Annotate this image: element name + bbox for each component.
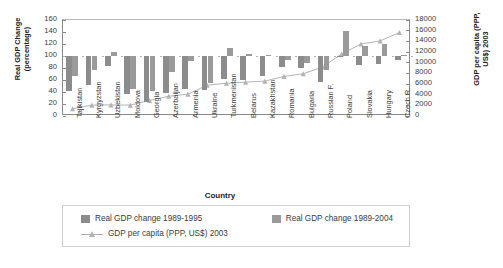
tick-mark [63, 20, 66, 21]
legend-swatch-line-marker [81, 230, 103, 238]
baseline-tick [372, 56, 374, 57]
gdp-chart: Real GDP Change (percentage) GDP per cap… [0, 0, 503, 268]
baseline-tick [218, 56, 220, 57]
y-axis-right-label: 12000 [415, 47, 449, 55]
bar [246, 54, 252, 56]
baseline-tick [392, 56, 394, 57]
x-axis-label: Bulgaria [307, 91, 316, 118]
x-axis-label: Hungary [384, 90, 393, 118]
x-axis-label: Romania [287, 88, 296, 118]
bar [285, 56, 291, 60]
baseline-tick [295, 56, 297, 57]
y-axis-right-label: 10000 [415, 58, 449, 66]
bar [356, 56, 362, 65]
legend-label-0: Real GDP change 1989-1995 [95, 214, 202, 223]
x-axis-label: Kazakhstan [268, 79, 277, 118]
baseline-tick [276, 56, 278, 57]
x-axis-label: Moldova [133, 90, 142, 118]
legend-label-2: GDP per capita (PPP, US$) 2003 [108, 229, 228, 238]
y-axis-right-label: 2000 [415, 100, 449, 108]
legend-label-1: Real GDP change 1989-2004 [286, 214, 393, 223]
y-axis-left-label: 0 [27, 111, 57, 119]
x-axis-label: Armenia [191, 90, 200, 118]
y-axis-right-label: 8000 [415, 68, 449, 76]
bar [169, 56, 175, 72]
baseline-tick [160, 56, 162, 57]
x-axis-title: Country [0, 191, 440, 200]
baseline-tick [140, 56, 142, 57]
x-axis-label: Turkmenistan [229, 74, 238, 119]
line-marker-triangle-icon [397, 30, 402, 35]
bar [337, 56, 343, 57]
tick-mark [406, 20, 409, 21]
y-axis-right-label: 16000 [415, 26, 449, 34]
y-axis-right-label: 6000 [415, 79, 449, 87]
y-axis-left-label: 160 [27, 15, 57, 23]
y-axis-left-label: 120 [27, 39, 57, 47]
y-axis-left-label: 140 [27, 27, 57, 35]
baseline-tick [334, 56, 336, 57]
bar [401, 55, 407, 56]
bar [260, 56, 266, 76]
legend-row-2: GDP per capita (PPP, US$) 2003 [81, 226, 409, 241]
bar [105, 56, 111, 66]
bar [382, 44, 388, 56]
bar [150, 56, 156, 91]
tick-mark [63, 32, 66, 33]
bar [324, 56, 330, 70]
bar [395, 56, 401, 60]
y-axis-left-label: 100 [27, 51, 57, 59]
triangle-marker-icon [89, 231, 95, 237]
bar [130, 56, 136, 89]
bar [304, 56, 310, 63]
y-axis-right-label: 18000 [415, 15, 449, 23]
bar [221, 56, 227, 79]
x-axis-label: Kyrgyzstan [94, 81, 103, 118]
bar [343, 31, 349, 56]
baseline-tick [82, 56, 84, 57]
tick-mark [406, 73, 409, 74]
x-axis-label: Slovakia [365, 90, 374, 118]
baseline-tick [198, 56, 200, 57]
baseline-tick [237, 56, 239, 57]
legend-item-0: Real GDP change 1989-1995 [81, 214, 256, 223]
bar [240, 56, 246, 80]
y-axis-left-label: 40 [27, 87, 57, 95]
tick-mark [406, 41, 409, 42]
bar [92, 56, 98, 70]
legend-swatch-bar-1989-1995 [81, 215, 90, 223]
bar [362, 46, 368, 56]
x-axis-label: Belarus [249, 93, 258, 118]
legend-swatch-bar-1989-2004 [272, 215, 281, 223]
bar [188, 56, 194, 61]
x-axis-label: Azerbaijan [171, 83, 180, 118]
bar [376, 56, 382, 64]
y-axis-left-label: 60 [27, 75, 57, 83]
x-axis-label: Ukraine [210, 93, 219, 118]
tick-mark [406, 62, 409, 63]
x-axis-label: Uzbekistan [113, 81, 122, 118]
tick-mark [63, 104, 66, 105]
baseline-tick [121, 56, 123, 57]
tick-mark [63, 44, 66, 45]
bar [208, 56, 214, 83]
legend-item-2: GDP per capita (PPP, US$) 2003 [81, 229, 228, 238]
baseline-tick [353, 56, 355, 57]
baseline-tick [256, 56, 258, 57]
bar [72, 56, 78, 76]
y-axis-right-label: 4000 [415, 90, 449, 98]
bar [111, 52, 117, 56]
tick-mark [406, 84, 409, 85]
bar [266, 55, 272, 56]
tick-mark [63, 116, 66, 117]
chart-legend: Real GDP change 1989-1995 Real GDP chang… [62, 205, 410, 247]
baseline-tick [179, 56, 181, 57]
tick-mark [63, 92, 66, 93]
x-axis-label: Poland [345, 95, 354, 118]
y-axis-right-label: 0 [415, 111, 449, 119]
legend-item-1: Real GDP change 1989-2004 [272, 214, 393, 223]
y-axis-right-title: GDP per capita (PPP, US$) 2003 [472, 5, 490, 93]
x-axis-label: Russian F. [326, 83, 335, 118]
x-axis-label: Tajikistan [75, 88, 84, 118]
x-axis-label: Czech R. [403, 88, 412, 118]
